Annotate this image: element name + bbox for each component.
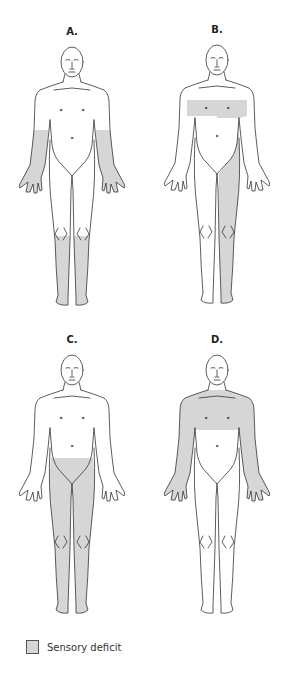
panel-label-a: A. bbox=[0, 26, 144, 37]
body-figure-d bbox=[145, 348, 289, 618]
panel-label-b: B. bbox=[145, 24, 289, 35]
panel-label-d: D. bbox=[145, 334, 289, 345]
body-figure-a bbox=[0, 40, 144, 310]
legend: Sensory deficit bbox=[26, 640, 121, 654]
legend-label: Sensory deficit bbox=[47, 642, 121, 653]
body-figure-b bbox=[145, 38, 289, 308]
body-figure-c bbox=[0, 348, 144, 618]
panel-label-c: C. bbox=[0, 334, 144, 345]
legend-swatch bbox=[26, 640, 39, 654]
